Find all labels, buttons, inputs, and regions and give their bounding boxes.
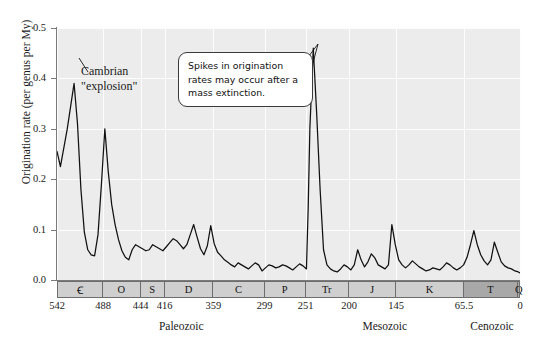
period-cell: Ꞓ <box>57 281 103 298</box>
period-cell: T <box>464 281 518 298</box>
x-tick-label: 200 <box>341 300 357 311</box>
y-tick-mark <box>51 230 56 231</box>
y-tick-mark <box>51 280 56 281</box>
chart-figure: 0.00.10.20.30.40.5 Origination rate (per… <box>0 0 533 351</box>
period-cell: P <box>265 281 306 298</box>
period-cell: J <box>349 281 396 298</box>
x-tick-label: 145 <box>388 300 404 311</box>
y-tick-label: 0.1 <box>18 225 46 236</box>
x-tick-label: 359 <box>205 300 221 311</box>
x-tick-label: 488 <box>95 300 111 311</box>
annotation-cambrian-explosion: Cambrian "explosion" <box>81 64 137 94</box>
x-tick-label: 416 <box>157 300 173 311</box>
period-cell: Tr <box>306 281 350 298</box>
x-tick-label: 0 <box>517 300 522 311</box>
era-label: Paleozoic <box>159 320 204 332</box>
y-tick-mark <box>51 129 56 130</box>
y-axis-label: Origination rate (per genus per My) <box>20 0 32 212</box>
x-tick-label: 251 <box>298 300 314 311</box>
x-tick-label: 542 <box>49 300 65 311</box>
y-tick-mark <box>51 78 56 79</box>
period-cell: Q <box>518 281 520 298</box>
y-tick-mark <box>51 179 56 180</box>
period-cell: D <box>165 281 214 298</box>
period-cell: K <box>396 281 464 298</box>
era-label: Mesozoic <box>362 320 407 332</box>
annotation-spike-callout: Spikes in origination rates may occur af… <box>178 52 313 107</box>
period-cell: S <box>141 281 165 298</box>
x-tick-label: 444 <box>133 300 149 311</box>
x-tick-label: 65.5 <box>455 300 473 311</box>
period-cell: O <box>103 281 141 298</box>
period-cell: C <box>213 281 264 298</box>
era-label: Cenozoic <box>470 320 513 332</box>
x-tick-label: 299 <box>257 300 273 311</box>
cambrian-line-2: "explosion" <box>81 79 137 94</box>
y-tick-mark <box>51 28 56 29</box>
y-tick-label: 0.0 <box>18 275 46 286</box>
geologic-period-band: ꞒOSDCPTrJKTQ <box>57 281 520 298</box>
gridline-vertical <box>520 28 521 280</box>
cambrian-line-1: Cambrian <box>81 64 137 79</box>
